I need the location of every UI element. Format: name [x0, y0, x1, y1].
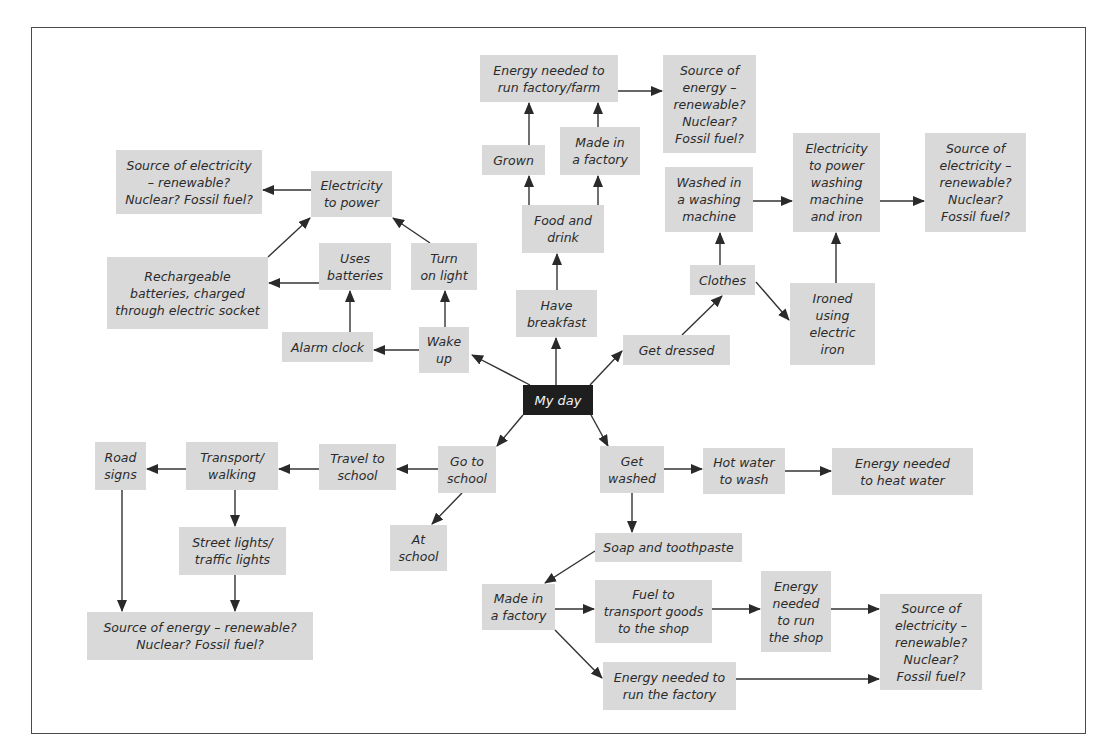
node-uses-batteries: Uses batteries [319, 243, 391, 290]
node-road-signs: Road signs [95, 442, 146, 490]
node-energy-run-shop: Energy needed to run the shop [761, 571, 831, 652]
node-made-in-factory-top: Made in a factory [560, 127, 640, 175]
node-energy-heat-water: Energy needed to heat water [832, 448, 973, 495]
node-have-breakfast: Have breakfast [516, 290, 597, 337]
node-get-washed: Get washed [600, 446, 664, 493]
node-wake-up: Wake up [419, 327, 469, 373]
node-source-energy-top: Source of energy – renewable? Nuclear? F… [663, 55, 756, 153]
node-get-dressed: Get dressed [623, 335, 730, 365]
node-fuel-transport: Fuel to transport goods to the shop [595, 580, 712, 643]
node-source-electricity-left: Source of electricity – renewable? Nucle… [116, 150, 262, 214]
node-grown: Grown [482, 145, 545, 175]
node-electricity-to-power: Electricity to power [311, 171, 392, 217]
node-alarm-clock: Alarm clock [282, 332, 373, 362]
node-made-in-factory-bottom: Made in a factory [482, 584, 555, 630]
node-energy-factory-farm: Energy needed to run factory/farm [480, 55, 618, 102]
node-source-electricity-right-top: Source of electricity – renewable? Nucle… [925, 133, 1026, 232]
node-source-electricity-bottom-right: Source of electricity – renewable? Nucle… [880, 594, 982, 690]
node-energy-run-factory: Energy needed to run the factory [603, 662, 736, 710]
node-ironed: Ironed using electric iron [790, 283, 875, 365]
node-electricity-washing-iron: Electricity to power washing machine and… [793, 133, 880, 232]
node-food-and-drink: Food and drink [522, 205, 604, 253]
node-clothes: Clothes [690, 265, 755, 295]
node-rechargeable-batteries: Rechargeable batteries, charged through … [107, 257, 268, 329]
node-source-energy-bottom-left: Source of energy – renewable? Nuclear? F… [87, 612, 313, 660]
node-soap-toothpaste: Soap and toothpaste [595, 533, 742, 562]
node-washed-machine: Washed in a washing machine [665, 167, 753, 232]
node-my-day: My day [523, 385, 593, 415]
node-travel-to-school: Travel to school [319, 444, 396, 490]
node-street-lights: Street lights/ traffic lights [179, 527, 286, 575]
node-hot-water: Hot water to wash [703, 448, 785, 494]
node-at-school: At school [390, 525, 447, 571]
node-turn-on-light: Turn on light [411, 243, 477, 290]
node-go-to-school: Go to school [438, 446, 496, 493]
node-transport-walking: Transport/ walking [186, 442, 278, 490]
